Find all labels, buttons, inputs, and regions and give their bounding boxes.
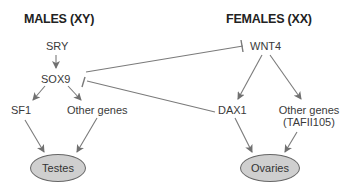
inhibition-bar-wnt4: [241, 40, 243, 52]
gene-sox9: SOX9: [41, 73, 70, 85]
gene-sf1: SF1: [11, 104, 31, 116]
edge-sox9-inhibits-wnt4: [86, 46, 243, 72]
edge-other-genes-ovaries: [285, 132, 297, 152]
ovaries-label: Ovaries: [251, 162, 289, 174]
edge-wnt4-other-genes: [270, 55, 301, 99]
edge-dax1-ovaries: [235, 118, 252, 152]
organ-ovaries: Ovaries: [240, 154, 300, 182]
gene-dax1: DAX1: [218, 104, 247, 116]
testes-label: Testes: [42, 162, 74, 174]
edge-sox9-sf1: [33, 86, 45, 100]
gene-sry: SRY: [46, 40, 68, 52]
gene-wnt4: WNT4: [250, 40, 281, 52]
inhibition-bar-sox9: [82, 77, 85, 87]
other-genes-label: Other genes: [276, 104, 342, 116]
edge-sox9-other-genes: [68, 86, 81, 100]
tafii105-label: (TAFII105): [276, 116, 342, 128]
edge-wnt4-dax1: [238, 55, 262, 99]
organ-testes: Testes: [30, 154, 86, 182]
gene-other-genes-female: Other genes (TAFII105): [276, 104, 342, 128]
edge-other-genes-testes: [77, 118, 97, 152]
edge-sf1-testes: [25, 120, 44, 152]
males-header: MALES (XY): [24, 12, 94, 26]
gene-other-genes-male: Other genes: [67, 104, 128, 116]
females-header: FEMALES (XX): [226, 12, 312, 26]
